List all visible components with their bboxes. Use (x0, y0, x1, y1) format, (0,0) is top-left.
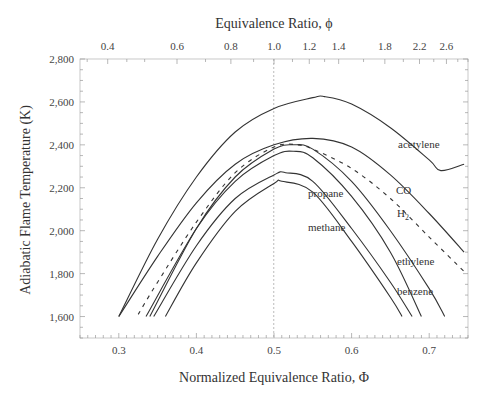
top-tick-label: 1.2 (302, 40, 316, 52)
x-tick-label: 0.3 (112, 344, 126, 356)
label-ethylene: ethylene (397, 255, 434, 267)
x-axis-title: Normalized Equivalence Ratio, Φ (179, 370, 369, 385)
curve-propane (154, 172, 412, 317)
top-tick-label: 0.8 (224, 40, 238, 52)
label-acetylene: acetylene (398, 138, 440, 150)
curve-group (119, 96, 464, 317)
label-h2-main: H (397, 207, 405, 219)
y-tick-label: 2,800 (49, 53, 74, 65)
y-tick-label: 2,600 (49, 96, 74, 108)
x-tick-label: 0.5 (267, 344, 281, 356)
x-axis: 0.30.40.50.60.7 (80, 333, 468, 356)
x-tick-label: 0.7 (422, 344, 436, 356)
top-tick-label: 2.2 (413, 40, 427, 52)
y-tick-label: 2,200 (49, 182, 74, 194)
label-h2: H2 (397, 207, 409, 222)
top-tick-label: 1.0 (267, 40, 281, 52)
flame-temperature-chart: Equivalence Ratio, ϕ Adiabatic Flame Tem… (0, 0, 488, 395)
label-methane: methane (308, 221, 345, 233)
y-tick-label: 1,800 (49, 268, 74, 280)
top-tick-label: 1.8 (378, 40, 392, 52)
y-tick-label: 2,000 (49, 225, 74, 237)
y-tick-label: 2,400 (49, 139, 74, 151)
curve-acetylene (119, 96, 464, 317)
top-tick-label: 0.6 (170, 40, 184, 52)
top-tick-label: 2.6 (440, 40, 454, 52)
top-tick-label: 0.4 (101, 40, 115, 52)
x-tick-label: 0.6 (345, 344, 359, 356)
top-axis: 0.40.60.81.01.21.41.82.22.6 (87, 40, 468, 64)
top-tick-label: 1.4 (332, 40, 346, 52)
y-axis-title: Adiabatic Flame Temperature (K) (18, 105, 34, 295)
x-tick-label: 0.4 (190, 344, 204, 356)
y-tick-label: 1,600 (49, 311, 74, 323)
curve-benzene (146, 151, 421, 316)
top-axis-title: Equivalence Ratio, ϕ (215, 16, 332, 31)
label-propane: propane (308, 187, 344, 199)
label-h2-sub: 2 (405, 213, 409, 222)
label-benzene: benzene (397, 285, 433, 297)
label-co: CO (396, 184, 411, 196)
